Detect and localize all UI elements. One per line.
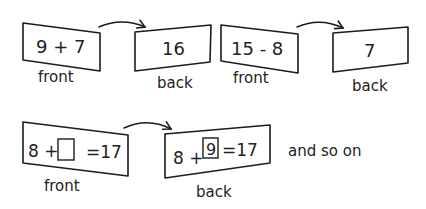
card-back-filled-addend: 8 + 9 =17 back xyxy=(165,125,270,201)
card-front-9-plus-7: 9 + 7 front xyxy=(23,23,100,86)
card-back-7: 7 back xyxy=(333,27,408,95)
filled-answer-value: 9 xyxy=(206,140,216,159)
card-front-15-minus-8: 15 - 8 front xyxy=(221,25,298,87)
card-expression: 15 - 8 xyxy=(231,38,283,59)
blank-answer-box xyxy=(58,139,74,160)
front-label: front xyxy=(44,177,80,195)
flip-arrow-icon xyxy=(99,22,145,27)
back-label: back xyxy=(352,77,388,95)
card-expression-right: =17 xyxy=(222,140,258,160)
card-front-missing-addend: 8 + =17 front xyxy=(23,122,128,195)
flashcard-diagram: 9 + 7 front 16 back 15 - 8 front 7 back … xyxy=(0,0,426,209)
flip-arrow-icon xyxy=(124,123,171,129)
back-label: back xyxy=(157,74,193,92)
front-label: front xyxy=(233,69,269,87)
and-so-on-text: and so on xyxy=(288,142,361,160)
card-expression-right: =17 xyxy=(86,142,122,162)
card-back-16: 16 back xyxy=(135,25,211,92)
card-expression: 7 xyxy=(364,40,375,61)
back-label: back xyxy=(196,183,232,201)
front-label: front xyxy=(38,68,74,86)
card-expression-left: 8 + xyxy=(28,141,58,161)
card-expression: 9 + 7 xyxy=(36,36,85,57)
card-expression: 16 xyxy=(162,38,185,59)
flip-arrow-icon xyxy=(297,22,343,28)
card-expression-left: 8 + xyxy=(173,148,203,168)
